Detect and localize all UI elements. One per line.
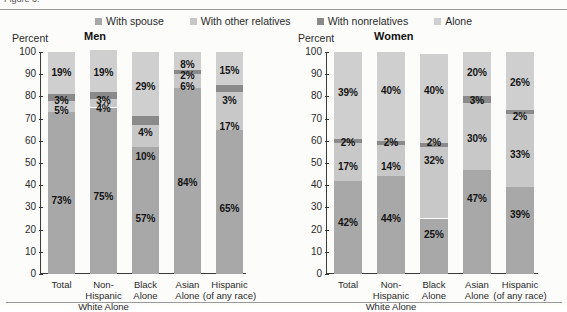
bar-segment-label: 19% xyxy=(90,68,117,78)
bar-segment-label: 29% xyxy=(132,82,159,92)
y-axis-tick xyxy=(39,230,43,231)
bar-segment-label: 3% xyxy=(216,96,243,106)
bar-segment-label: 39% xyxy=(334,88,362,98)
bar-segment-label: 17% xyxy=(334,162,362,172)
bar-2: 40%2%32%25% xyxy=(420,52,448,274)
bar-segment-label: 40% xyxy=(377,86,405,96)
chart-title: Men xyxy=(84,30,106,42)
y-axis-tick xyxy=(325,52,329,53)
y-axis-tick-label: 100 xyxy=(298,46,322,57)
legend-swatch-icon xyxy=(317,18,324,25)
bar-segment-label: 2% xyxy=(334,138,362,148)
y-axis-tick xyxy=(325,141,329,142)
bar-segment-label: 73% xyxy=(48,196,75,206)
bar-4: 15%3%17%65% xyxy=(216,52,243,274)
chart-women: WomenPercent010203040506070809010039%2%1… xyxy=(262,30,562,306)
bar-segment xyxy=(132,147,159,274)
bar-segment-label: 33% xyxy=(506,150,534,160)
bar-segment-label: 5% xyxy=(48,106,75,116)
y-axis-tick-label: 50 xyxy=(12,157,36,168)
bar-segment-label: 42% xyxy=(334,218,362,228)
bar-segment-label: 65% xyxy=(216,204,243,214)
bar-segment-label: 25% xyxy=(420,230,448,240)
legend-item-label: With spouse xyxy=(106,15,164,27)
bar-segment-label: 4% xyxy=(90,104,117,114)
top-divider-rule xyxy=(0,9,567,10)
bar-segment-label: 39% xyxy=(506,210,534,220)
legend-item-1: With other relatives xyxy=(190,15,291,27)
y-axis-tick-label: 60 xyxy=(298,135,322,146)
y-axis-tick-label: 100 xyxy=(12,46,36,57)
y-axis-tick xyxy=(39,119,43,120)
y-axis-tick xyxy=(325,96,329,97)
y-axis-tick xyxy=(39,74,43,75)
bar-segment xyxy=(506,187,534,274)
legend-swatch-icon xyxy=(190,18,197,25)
bar-segment-label: 2% xyxy=(506,112,534,122)
bar-segment xyxy=(216,85,243,92)
y-axis-title: Percent xyxy=(12,32,48,44)
y-axis-tick xyxy=(325,163,329,164)
bar-segment-label: 2% xyxy=(174,71,201,81)
bar-segment-label: 44% xyxy=(377,214,405,224)
bar-segment-label: 26% xyxy=(506,78,534,88)
bar-0: 39%2%17%42% xyxy=(334,52,362,274)
clipped-caption-strip: Figure 3. xyxy=(0,0,567,9)
y-axis-tick xyxy=(325,74,329,75)
bar-segment-label: 4% xyxy=(132,128,159,138)
bar-3: 20%3%30%47% xyxy=(463,52,491,274)
legend-item-label: With other relatives xyxy=(201,15,291,27)
legend-item-label: With nonrelatives xyxy=(328,15,409,27)
bar-segment-label: 19% xyxy=(48,68,75,78)
bar-1: 19%3%4%75% xyxy=(90,52,117,274)
y-axis-tick-label: 40 xyxy=(12,179,36,190)
bar-segment xyxy=(377,176,405,274)
bar-2: 29%4%10%57% xyxy=(132,52,159,274)
y-axis-tick xyxy=(325,274,329,275)
bar-segment-label: 20% xyxy=(463,68,491,78)
bar-segment xyxy=(463,170,491,274)
y-axis-tick xyxy=(39,96,43,97)
legend-item-0: With spouse xyxy=(95,15,164,27)
y-axis-tick xyxy=(325,119,329,120)
y-axis-tick-label: 50 xyxy=(298,157,322,168)
legend-swatch-icon xyxy=(95,18,102,25)
bar-segment xyxy=(216,130,243,274)
bar-segment xyxy=(377,52,405,141)
bar-segment-label: 2% xyxy=(377,138,405,148)
y-axis-tick-label: 40 xyxy=(298,179,322,190)
y-axis-tick xyxy=(39,274,43,275)
bar-segment xyxy=(132,116,159,125)
y-axis-tick-label: 60 xyxy=(12,135,36,146)
legend-item-3: Alone xyxy=(434,15,472,27)
bar-segment-label: 15% xyxy=(216,66,243,76)
bar-segment-label: 32% xyxy=(420,156,448,166)
y-axis-tick-label: 20 xyxy=(298,224,322,235)
bar-segment-label: 84% xyxy=(174,178,201,188)
bar-segment-label: 6% xyxy=(174,82,201,92)
y-axis-tick xyxy=(39,52,43,53)
y-axis-title: Percent xyxy=(298,32,334,44)
bar-segment-label: 17% xyxy=(216,122,243,132)
bar-segment xyxy=(420,219,448,275)
y-axis-tick-label: 0 xyxy=(298,268,322,279)
y-axis-tick-label: 10 xyxy=(12,246,36,257)
bar-segment-label: 10% xyxy=(132,152,159,162)
chart-title: Women xyxy=(374,30,414,42)
legend-item-2: With nonrelatives xyxy=(317,15,409,27)
bar-1: 40%2%14%44% xyxy=(377,52,405,274)
chart-legend: With spouseWith other relativesWith nonr… xyxy=(0,15,567,27)
x-axis-category-label: Hispanic (of any race) xyxy=(492,279,548,301)
x-axis-category-label: Hispanic (of any race) xyxy=(203,279,257,301)
bar-segment-label: 40% xyxy=(420,86,448,96)
y-axis-tick-label: 80 xyxy=(12,90,36,101)
bar-segment-label: 30% xyxy=(463,134,491,144)
y-axis-tick-label: 10 xyxy=(298,246,322,257)
bar-segment xyxy=(420,54,448,143)
y-axis-tick-label: 30 xyxy=(298,201,322,212)
y-axis-tick xyxy=(39,252,43,253)
plot-area: 010203040506070809010039%2%17%42%Total40… xyxy=(326,52,538,274)
bar-0: 19%3%5%73% xyxy=(48,52,75,274)
y-axis-tick-label: 0 xyxy=(12,268,36,279)
y-axis-tick xyxy=(325,252,329,253)
